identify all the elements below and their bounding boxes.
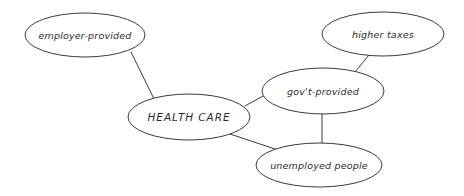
node-unemployed-people[interactable]: unemployed people xyxy=(256,143,382,187)
edge-employer-to-healthcare xyxy=(131,52,155,101)
node-govt-provided[interactable]: gov't-provided xyxy=(262,68,384,114)
node-higher-taxes[interactable]: higher taxes xyxy=(322,12,444,56)
node-health-care[interactable]: HEALTH CARE xyxy=(128,94,250,140)
node-label-employer-provided: employer-provided xyxy=(38,30,132,41)
edge-govt-to-higher-taxes xyxy=(355,55,369,72)
concept-map-canvas: employer-provided higher taxes gov't-pro… xyxy=(0,0,464,196)
node-label-health-care: HEALTH CARE xyxy=(148,111,231,123)
concept-map-svg: employer-provided higher taxes gov't-pro… xyxy=(0,0,464,196)
node-label-higher-taxes: higher taxes xyxy=(352,29,414,40)
node-employer-provided[interactable]: employer-provided xyxy=(25,13,145,57)
node-label-unemployed-people: unemployed people xyxy=(270,160,368,171)
edge-healthcare-to-unemployed xyxy=(230,134,278,150)
edge-healthcare-to-govt xyxy=(245,95,265,106)
node-label-govt-provided: gov't-provided xyxy=(287,86,360,97)
